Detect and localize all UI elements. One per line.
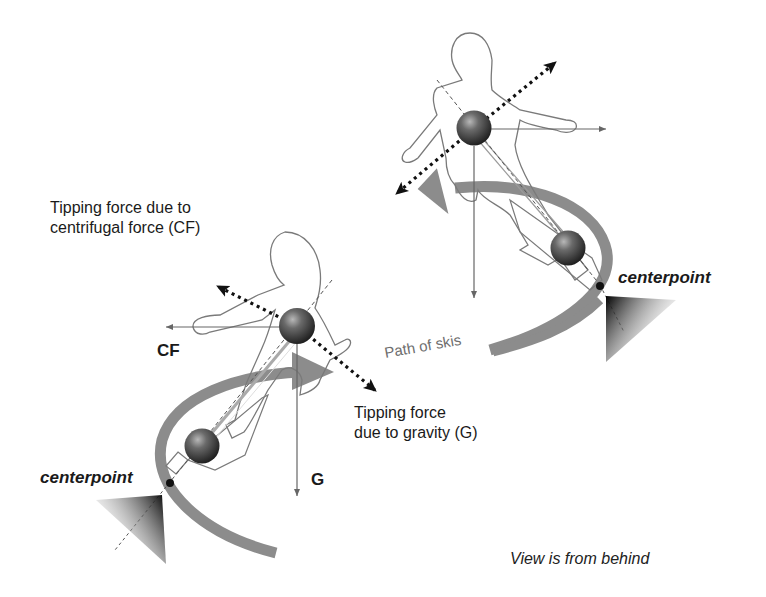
cf-tipping-label: Tipping force due to centrifugal force (…	[50, 198, 200, 238]
g-tipping-label: Tipping force due to gravity (G)	[354, 403, 478, 443]
upper-skier-group	[396, 33, 676, 362]
view-note-label: View is from behind	[510, 550, 649, 568]
cf-label: CF	[157, 341, 180, 361]
g-tipping-label-line2: due to gravity (G)	[354, 423, 478, 443]
lower-skier-group	[96, 232, 600, 564]
lower-path-arrowhead-icon	[292, 352, 334, 390]
lower-skier-outline-icon	[193, 232, 351, 438]
lower-wedge-icon	[96, 495, 166, 564]
upper-foot-ball	[551, 231, 586, 266]
cf-tipping-label-line1: Tipping force due to	[50, 198, 200, 218]
cf-tipping-label-line2: centrifugal force (CF)	[50, 218, 200, 238]
upper-center-of-mass-ball	[457, 111, 492, 146]
upper-centerpoint-dot	[596, 282, 604, 290]
lower-centerpoint-dot	[166, 479, 174, 487]
centerpoint-lower-label: centerpoint	[40, 468, 133, 488]
g-label: G	[311, 470, 324, 490]
ski-forces-diagram	[0, 0, 766, 597]
upper-path-arc	[455, 187, 607, 350]
lower-center-of-mass-ball	[279, 308, 315, 344]
g-tipping-label-line1: Tipping force	[354, 403, 478, 423]
centerpoint-upper-label: centerpoint	[618, 268, 711, 288]
lower-foot-ball	[185, 429, 220, 464]
upper-wedge-icon	[606, 296, 676, 362]
